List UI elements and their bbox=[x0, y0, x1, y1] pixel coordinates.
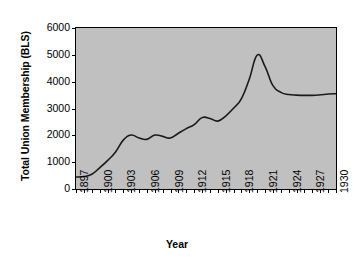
x-tick-label: 1912 bbox=[197, 170, 208, 193]
x-tick-label: 1927 bbox=[315, 170, 326, 193]
x-axis-title: Year bbox=[0, 238, 354, 250]
x-tick-label: 1930 bbox=[339, 170, 350, 193]
x-tick-label: 1921 bbox=[268, 170, 279, 193]
x-tick-label: 1915 bbox=[221, 170, 232, 193]
x-tick-label: 1903 bbox=[126, 170, 137, 193]
x-tick-label: 1897 bbox=[79, 170, 90, 193]
chart-container: Total Union Membership (BLS) 01000200030… bbox=[0, 0, 354, 259]
x-tick-label: 1900 bbox=[103, 170, 114, 193]
x-tick-label: 1909 bbox=[174, 170, 185, 193]
x-tick-label: 1924 bbox=[292, 170, 303, 193]
x-tick-label: 1918 bbox=[244, 170, 255, 193]
x-axis-tick-labels: 1897190019031906190919121915191819211924… bbox=[0, 0, 354, 259]
x-tick-label: 1906 bbox=[150, 170, 161, 193]
